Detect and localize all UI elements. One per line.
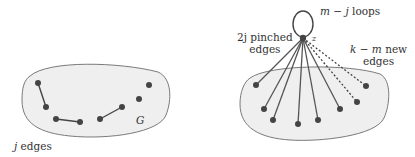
caption-text: edges [17, 140, 52, 152]
loops-label: m − j loops [320, 5, 380, 17]
loops-text: loops [349, 5, 380, 17]
pinched-text2: edges [249, 43, 280, 55]
pinched-label: 2j pinchededges [237, 31, 293, 55]
j-edges-label: j edges [14, 140, 52, 152]
vertex-z-label: z [312, 33, 316, 45]
new-edges-label: k − m newedges [350, 43, 407, 67]
loop [293, 11, 313, 37]
new-text2: edges [363, 55, 394, 67]
pinched-text: pinched [247, 31, 293, 43]
new-text: new [382, 43, 407, 55]
pinched-var: 2j [237, 31, 247, 43]
graph-label: G [136, 114, 144, 126]
diagram-canvas [0, 0, 415, 157]
loops-var: m − j [320, 5, 349, 17]
new-var: k − m [350, 43, 382, 55]
